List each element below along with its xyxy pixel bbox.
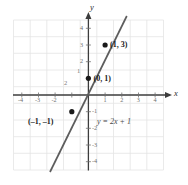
x-tick-label-neg2: -2 bbox=[52, 97, 57, 103]
x-tick-label-neg3: -3 bbox=[35, 97, 40, 103]
x-tick-label-3: 3 bbox=[137, 97, 140, 103]
graph-figure: x y -4 -3 -2 1 2 3 4 4 3 2 -1 -2 -3 -4 1… bbox=[0, 0, 188, 185]
point-label-0-1: (0, 1) bbox=[94, 75, 111, 83]
x-axis-label: x bbox=[174, 89, 178, 98]
y-tick-label-4: 4 bbox=[80, 25, 83, 31]
point-label-neg1-neg1: (–1, –1) bbox=[28, 118, 53, 126]
y-tick-label-neg3: -3 bbox=[92, 142, 97, 148]
data-point-0-1 bbox=[86, 76, 91, 81]
data-point-1-3 bbox=[103, 42, 108, 47]
equation-annotation: y = 2x + 1 bbox=[97, 118, 131, 126]
x-tick-label-1: 1 bbox=[104, 97, 107, 103]
near-origin-label-two: 2 bbox=[64, 80, 67, 87]
y-tick-label-neg1: -1 bbox=[92, 108, 97, 114]
point-label-1-3: (1, 3) bbox=[110, 41, 127, 49]
x-tick-label-4: 4 bbox=[154, 97, 157, 103]
y-axis-label: y bbox=[90, 3, 94, 12]
near-origin-label-one: 1 bbox=[77, 68, 80, 75]
x-tick-label-2: 2 bbox=[120, 97, 123, 103]
data-point-neg1-neg1 bbox=[69, 109, 74, 114]
y-tick-label-3: 3 bbox=[80, 42, 83, 48]
y-tick-label-2: 2 bbox=[80, 58, 83, 64]
x-tick-label-neg4: -4 bbox=[18, 97, 23, 103]
y-tick-label-neg4: -4 bbox=[92, 158, 97, 164]
